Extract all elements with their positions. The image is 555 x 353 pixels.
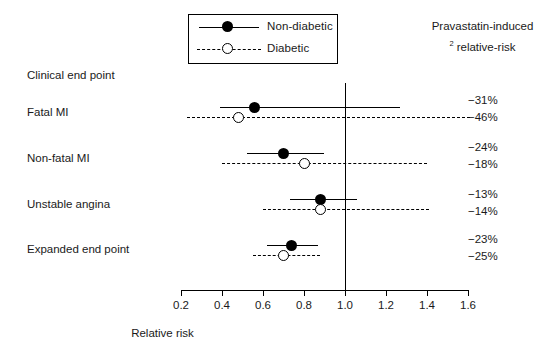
x-axis-title: Relative risk	[0, 327, 555, 339]
clinical-end-point-header: Clinical end point	[27, 69, 115, 81]
x-tick-label: 0.2	[161, 299, 201, 311]
legend-item-diabetic: Diabetic	[189, 39, 337, 61]
x-tick-label: 1.6	[448, 299, 488, 311]
point-marker-expanded-end-point-diabetic	[278, 250, 289, 261]
pct-fatal-mi-non-diabetic: −31%	[468, 94, 498, 106]
x-tick	[468, 290, 469, 296]
x-tick	[427, 290, 428, 296]
point-marker-non-fatal-mi-non-diabetic	[278, 148, 289, 159]
pct-expanded-non-diabetic: −23%	[468, 233, 498, 245]
ci-line-non-fatal-mi-diabetic	[222, 163, 427, 164]
ci-line-expanded-end-point-non-diabetic	[267, 245, 318, 246]
point-marker-fatal-mi-non-diabetic	[249, 102, 260, 113]
point-marker-fatal-mi-diabetic	[233, 112, 244, 123]
x-tick	[345, 290, 346, 296]
filled-circle-icon	[222, 21, 233, 32]
pct-expanded-diabetic: −25%	[468, 250, 498, 262]
legend-label-non-diabetic: Non-diabetic	[267, 20, 333, 32]
x-tick	[222, 290, 223, 296]
row-label-expanded-end-point: Expanded end point	[27, 243, 129, 255]
open-circle-icon	[222, 43, 233, 54]
ci-line-expanded-end-point-diabetic	[253, 255, 321, 256]
footnote-superscript: 2	[450, 39, 454, 48]
ci-line-fatal-mi-diabetic	[187, 117, 470, 118]
relative-risk-header-text: relative-risk	[457, 41, 516, 53]
pct-non-fatal-mi-non-diabetic: −24%	[468, 141, 498, 153]
pct-unstable-angina-diabetic: −14%	[468, 205, 498, 217]
point-marker-expanded-end-point-non-diabetic	[286, 240, 297, 251]
x-tick	[181, 290, 182, 296]
ci-line-unstable-angina-non-diabetic	[290, 199, 358, 200]
row-label-fatal-mi: Fatal MI	[27, 106, 69, 118]
ci-line-unstable-angina-diabetic	[263, 209, 429, 210]
forest-plot-figure: Non-diabetic Diabetic Pravastatin-induce…	[0, 0, 555, 353]
row-label-unstable-angina: Unstable angina	[27, 198, 110, 210]
point-marker-unstable-angina-non-diabetic	[315, 194, 326, 205]
x-tick	[263, 290, 264, 296]
relative-risk-header: Pravastatin-induced 2relative-risk	[410, 18, 555, 56]
pct-fatal-mi-diabetic: −46%	[468, 111, 498, 123]
x-tick-label: 1.4	[407, 299, 447, 311]
point-marker-unstable-angina-diabetic	[315, 204, 326, 215]
legend: Non-diabetic Diabetic	[188, 14, 338, 64]
x-tick-label: 0.4	[202, 299, 242, 311]
legend-label-diabetic: Diabetic	[267, 42, 309, 54]
x-tick	[386, 290, 387, 296]
x-tick-label: 0.8	[284, 299, 324, 311]
x-tick-label: 1.2	[366, 299, 406, 311]
pct-unstable-angina-non-diabetic: −13%	[468, 188, 498, 200]
x-tick-label: 1.0	[325, 299, 365, 311]
pct-non-fatal-mi-diabetic: −18%	[468, 158, 498, 170]
x-tick-label: 0.6	[243, 299, 283, 311]
reference-line	[345, 83, 346, 290]
point-marker-non-fatal-mi-diabetic	[299, 158, 310, 169]
legend-item-non-diabetic: Non-diabetic	[189, 17, 337, 39]
ci-line-fatal-mi-non-diabetic	[220, 107, 400, 108]
x-axis-line	[181, 290, 468, 291]
relative-risk-header-line1: Pravastatin-induced	[410, 18, 555, 35]
row-label-non-fatal-mi: Non-fatal MI	[27, 152, 90, 164]
ci-line-non-fatal-mi-non-diabetic	[247, 153, 325, 154]
relative-risk-header-line2: 2relative-risk	[410, 35, 555, 56]
x-tick	[304, 290, 305, 296]
x-axis-title-text: Relative risk	[131, 327, 194, 339]
